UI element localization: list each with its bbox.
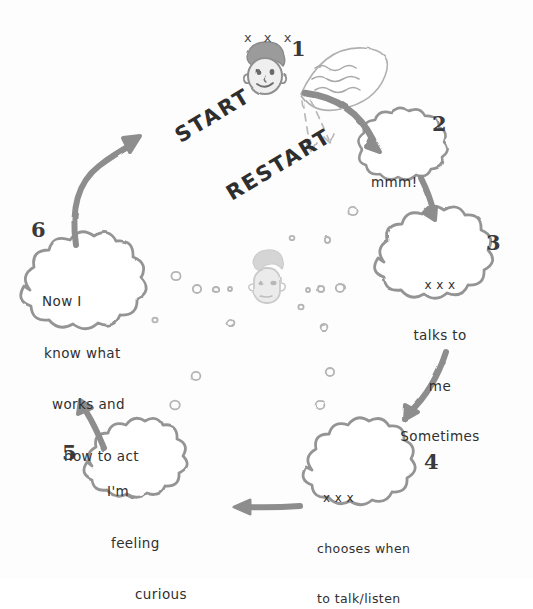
cloud-5-line-3: curious	[135, 587, 187, 603]
speech-bubble-leaf-shape	[301, 48, 387, 110]
cloud-4-line-2: chooses when	[317, 542, 427, 557]
cloud-5-line-2: feeling	[111, 536, 187, 552]
step-number-6: 6	[31, 218, 46, 243]
cloud-3-line-3: me	[395, 379, 485, 395]
cloud-4-line-3: to talk/listen	[317, 592, 427, 607]
cloud-3-line-4: Sometimes	[395, 429, 485, 445]
start-label: START	[171, 58, 297, 147]
cloud-6-line-4: how to act	[64, 449, 139, 465]
cloud-3-line-1: x x x	[395, 278, 485, 292]
step-number-3: 3	[486, 231, 501, 256]
cloud-6-line-2: know what	[44, 346, 139, 362]
cloud-4-line-1: x x x	[323, 491, 427, 505]
person-head-center-shape	[249, 250, 285, 303]
step-number-1: 1	[291, 37, 306, 62]
top-head-x-marks: x x x	[244, 30, 295, 45]
cloud-3-text: x x x talks to me Sometimes	[395, 246, 485, 477]
cloud-6-line-1: Now I	[42, 294, 139, 310]
arrow-2-to-3	[421, 178, 436, 220]
cloud-6-line-3: works and	[52, 397, 139, 413]
arrow-4-to-5	[234, 500, 300, 514]
cloud-6-text: Now I know what works and how to act	[42, 262, 139, 497]
cloud-3-line-2: talks to	[395, 328, 485, 344]
cloud-2-line-1: mmm!	[371, 175, 417, 191]
restart-label: RESTART	[222, 124, 336, 206]
cloud-4-text: x x x chooses when to talk/listen	[317, 459, 427, 609]
cloud-2-text: mmm!	[371, 143, 417, 223]
arrow-6-to-start	[74, 136, 140, 245]
step-number-2: 2	[432, 112, 447, 137]
